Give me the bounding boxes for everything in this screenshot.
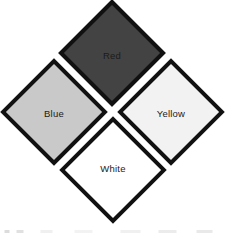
diamond-red-label: Red <box>78 21 146 89</box>
figure-canvas: Red Blue Yellow White <box>0 0 225 236</box>
diamond-yellow-label: Yellow <box>137 79 205 147</box>
diamond-cluster: Red Blue Yellow White <box>0 0 225 236</box>
diamond-white-label: White <box>79 134 147 202</box>
diamond-blue-label: Blue <box>20 79 88 147</box>
